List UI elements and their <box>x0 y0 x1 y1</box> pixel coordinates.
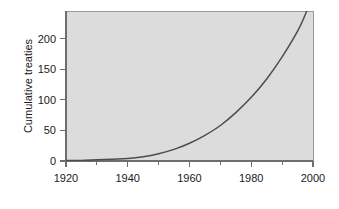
x-tick-label-1920: 1920 <box>54 172 78 184</box>
y-tick-label-200: 200 <box>38 33 56 45</box>
y-axis-ticks <box>60 39 66 162</box>
chart-figure: 0 50 100 150 200 1920 1940 1960 1980 <box>0 0 339 209</box>
line-chart: 0 50 100 150 200 1920 1940 1960 1980 <box>0 0 339 209</box>
y-tick-label-100: 100 <box>38 94 56 106</box>
x-axis-tick-labels: 1920 1940 1960 1980 2000 <box>54 172 325 184</box>
x-tick-label-1980: 1980 <box>239 172 263 184</box>
y-tick-label-50: 50 <box>44 124 56 136</box>
x-axis-ticks <box>66 161 313 167</box>
y-axis-title: Cumulative treaties <box>22 38 34 133</box>
y-axis-tick-labels: 0 50 100 150 200 <box>38 33 56 168</box>
x-tick-label-1960: 1960 <box>177 172 201 184</box>
y-tick-label-0: 0 <box>50 155 56 167</box>
x-tick-label-1940: 1940 <box>116 172 140 184</box>
y-tick-label-150: 150 <box>38 63 56 75</box>
plot-background <box>66 11 313 161</box>
x-tick-label-2000: 2000 <box>301 172 325 184</box>
